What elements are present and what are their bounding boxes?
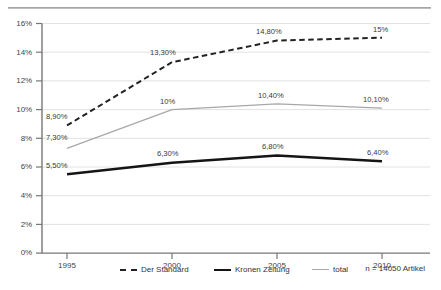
- point-label-total-1995: 7,30%: [46, 133, 68, 142]
- point-label-total-2010: 10,10%: [363, 95, 389, 104]
- point-label-total-2005: 10,40%: [258, 91, 284, 100]
- series-line-kronen-zeitung: [67, 156, 382, 175]
- legend-label-total: total: [333, 265, 348, 274]
- chart-plot-area: [0, 0, 441, 290]
- y-tick-label-14: 14%: [2, 48, 32, 57]
- chart-container: 16% 14% 12% 10% 8% 6% 4% 2% 0% 1995 2000…: [0, 0, 441, 290]
- y-tick-label-6: 6%: [2, 162, 32, 171]
- point-label-total-2000: 10%: [160, 97, 175, 106]
- series-line-total: [67, 104, 382, 148]
- y-tick-label-2: 2%: [2, 220, 32, 229]
- legend-swatch-dashed-icon: [120, 269, 137, 271]
- legend-item-total[interactable]: total: [312, 265, 348, 274]
- legend-item-kronen-zeitung[interactable]: Kronen Zeitung: [214, 265, 290, 274]
- point-label-der-standard-2005: 14,80%: [256, 27, 282, 36]
- point-label-kronen-zeitung-1995: 5,50%: [46, 161, 68, 170]
- point-label-der-standard-2010: 15%: [373, 25, 388, 34]
- series-line-der-standard: [67, 38, 382, 126]
- y-tick-label-4: 4%: [2, 191, 32, 200]
- point-label-kronen-zeitung-2005: 6,80%: [262, 142, 284, 151]
- legend-swatch-thin-icon: [312, 269, 329, 270]
- legend-label-kronen-zeitung: Kronen Zeitung: [235, 265, 290, 274]
- legend-swatch-solid-icon: [214, 269, 231, 271]
- y-tick-marks: [36, 24, 42, 225]
- chart-legend: Der Standard Kronen Zeitung total n = 14…: [42, 264, 431, 280]
- gridlines: [42, 24, 430, 225]
- y-tick-label-0: 0%: [2, 248, 32, 257]
- y-tick-label-12: 12%: [2, 76, 32, 85]
- y-tick-label-16: 16%: [2, 19, 32, 28]
- sample-size-note: n = 14050 Artikel: [365, 264, 425, 273]
- legend-item-der-standard[interactable]: Der Standard: [120, 265, 189, 274]
- point-label-kronen-zeitung-2000: 6,30%: [157, 149, 179, 158]
- point-label-der-standard-2000: 13,30%: [150, 48, 176, 57]
- y-tick-label-10: 10%: [2, 105, 32, 114]
- y-tick-label-8: 8%: [2, 134, 32, 143]
- point-label-der-standard-1995: 8,90%: [46, 112, 68, 121]
- legend-label-der-standard: Der Standard: [141, 265, 189, 274]
- x-tick-marks: [67, 253, 382, 259]
- point-label-kronen-zeitung-2010: 6,40%: [367, 148, 389, 157]
